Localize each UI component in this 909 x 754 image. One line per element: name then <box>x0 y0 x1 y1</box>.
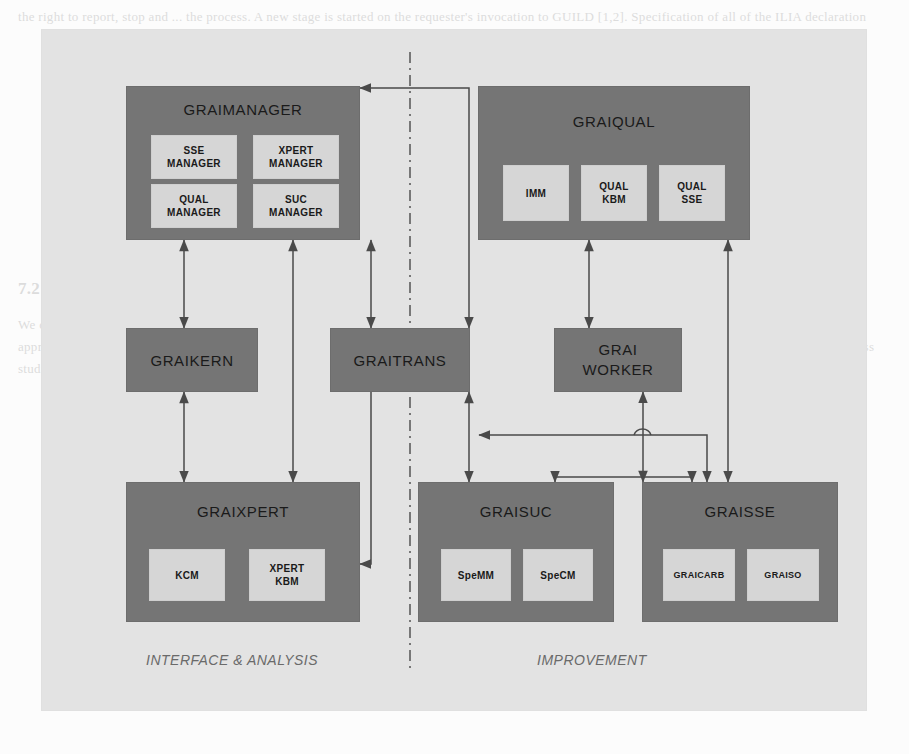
box-graimanager-title: GRAIMANAGER <box>127 101 359 118</box>
box-graitrans-label: GRAITRANS <box>354 351 447 370</box>
subbox-graiso-label: GRAISO <box>764 569 801 582</box>
subbox-spemm[interactable]: SpeMM <box>441 549 511 601</box>
box-graisse-title: GRAISSE <box>643 503 837 520</box>
subbox-xpert-manager[interactable]: XPERTMANAGER <box>253 135 339 179</box>
subbox-imm-label: IMM <box>526 187 546 200</box>
box-graisuc[interactable]: GRAISUC SpeMM SpeCM <box>418 482 614 622</box>
subbox-qual-sse-label: QUALSSE <box>677 180 707 206</box>
subbox-kcm-label: KCM <box>175 569 199 582</box>
box-graixpert[interactable]: GRAIXPERT KCM XPERTKBM <box>126 482 360 622</box>
subbox-imm[interactable]: IMM <box>503 165 569 221</box>
box-graitrans[interactable]: GRAITRANS <box>330 328 470 392</box>
ghost-paragraph-top: the right to report, stop and ... the pr… <box>18 6 891 28</box>
subbox-qual-kbm-label: QUALKBM <box>599 180 629 206</box>
subbox-qual-kbm[interactable]: QUALKBM <box>581 165 647 221</box>
subbox-specm-label: SpeCM <box>540 569 575 582</box>
box-graisse[interactable]: GRAISSE GRAICARB GRAISO <box>642 482 838 622</box>
subbox-suc-manager[interactable]: SUCMANAGER <box>253 184 339 228</box>
subbox-graicarb[interactable]: GRAICARB <box>663 549 735 601</box>
diagram-panel: GRAIMANAGER SSEMANAGER XPERTMANAGER QUAL… <box>42 30 866 710</box>
box-graikern-label: GRAIKERN <box>150 351 233 370</box>
box-graixpert-title: GRAIXPERT <box>127 503 359 520</box>
box-graimanager[interactable]: GRAIMANAGER SSEMANAGER XPERTMANAGER QUAL… <box>126 86 360 240</box>
subbox-xpert-kbm-label: XPERTKBM <box>270 562 305 588</box>
box-graiqual-title: GRAIQUAL <box>479 113 749 130</box>
arrow-graiqual-graimanager <box>360 88 469 126</box>
subbox-spemm-label: SpeMM <box>458 569 495 582</box>
arrow-graiworker-graisse-branch <box>651 435 707 482</box>
box-graikern[interactable]: GRAIKERN <box>126 328 258 392</box>
line-hop <box>634 429 651 435</box>
subbox-sse-manager-label: SSEMANAGER <box>167 144 221 170</box>
box-graiworker-label: GRAIWORKER <box>582 340 653 380</box>
box-graiworker[interactable]: GRAIWORKER <box>554 328 682 392</box>
subbox-graiso[interactable]: GRAISO <box>747 549 819 601</box>
box-graiqual[interactable]: GRAIQUAL IMM QUALKBM QUALSSE <box>478 86 750 240</box>
subbox-qual-manager-label: QUALMANAGER <box>167 193 221 219</box>
subbox-graicarb-label: GRAICARB <box>674 569 725 582</box>
zone-label-interface-analysis: INTERFACE & ANALYSIS <box>146 652 318 668</box>
subbox-xpert-manager-label: XPERTMANAGER <box>269 144 323 170</box>
subbox-kcm[interactable]: KCM <box>149 549 225 601</box>
zone-label-improvement: IMPROVEMENT <box>537 652 647 668</box>
subbox-suc-manager-label: SUCMANAGER <box>269 193 323 219</box>
subbox-qual-manager[interactable]: QUALMANAGER <box>151 184 237 228</box>
arrow-graitrans-graixpert <box>360 392 371 564</box>
subbox-qual-sse[interactable]: QUALSSE <box>659 165 725 221</box>
subbox-xpert-kbm[interactable]: XPERTKBM <box>249 549 325 601</box>
box-graisuc-title: GRAISUC <box>419 503 613 520</box>
subbox-specm[interactable]: SpeCM <box>523 549 593 601</box>
subbox-sse-manager[interactable]: SSEMANAGER <box>151 135 237 179</box>
